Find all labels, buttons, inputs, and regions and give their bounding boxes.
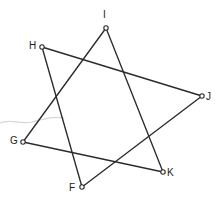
scan-smudge-icon [0, 117, 64, 123]
vertex-marker-f [80, 185, 84, 189]
vertex-label-k: K [167, 168, 174, 178]
vertex-marker-j [200, 94, 204, 98]
vertex-label-h: H [29, 41, 36, 51]
vertex-label-g: G [10, 136, 18, 146]
edge-F-J [82, 96, 202, 187]
edge-G-K [23, 142, 163, 172]
vertex-marker-h [40, 45, 44, 49]
edge-H-J [42, 47, 202, 96]
scan-artifact-layer [0, 117, 64, 123]
edge-layer [23, 28, 202, 187]
vertex-marker-i [104, 26, 108, 30]
geometry-figure: FGHIJK [0, 0, 220, 208]
vertex-label-j: J [206, 92, 211, 102]
vertex-label-i: I [103, 10, 106, 20]
edge-I-K [106, 28, 163, 172]
vertex-marker-k [161, 170, 165, 174]
vertex-label-f: F [69, 183, 75, 193]
figure-canvas [0, 0, 220, 208]
vertex-marker-g [21, 140, 25, 144]
edge-H-F [42, 47, 82, 187]
